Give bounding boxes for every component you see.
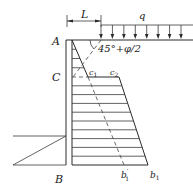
- surcharge-arrow-icon: [99, 34, 103, 39]
- dim-arrow-left-icon: [67, 20, 73, 23]
- label-B: B: [54, 173, 63, 186]
- surcharge-arrow-icon: [111, 34, 115, 39]
- dim-arrow-right-icon: [95, 20, 101, 23]
- label-L: L: [80, 8, 88, 21]
- label-q: q: [139, 10, 145, 21]
- surcharge-arrows: [99, 25, 183, 39]
- angle-arc: [90, 40, 94, 49]
- label-c2: c2: [110, 68, 118, 78]
- label-c1: c1: [89, 68, 97, 78]
- surcharge-arrow-icon: [133, 34, 137, 39]
- surcharge-arrow-icon: [168, 34, 172, 39]
- label-angle: 45°+φ/2: [97, 43, 141, 54]
- surcharge-arrow-icon: [122, 34, 126, 39]
- upper-hatch: [72, 49, 88, 77]
- dimension-L: L: [67, 8, 101, 27]
- surcharge-arrow-icon: [156, 34, 160, 39]
- earth-pressure-diagram: L q 45°+φ/2 A C B c1 c2 b′1 b1: [0, 0, 193, 192]
- label-b1: b1: [150, 170, 160, 181]
- surcharge-load: q: [99, 10, 193, 39]
- passive-slope-line: [13, 136, 66, 165]
- label-b1prime: b′1: [121, 168, 129, 182]
- lower-hatch: [72, 86, 145, 156]
- label-C: C: [52, 71, 61, 84]
- label-A: A: [51, 35, 60, 48]
- surcharge-arrow-icon: [179, 34, 183, 39]
- surcharge-arrow-icon: [145, 34, 149, 39]
